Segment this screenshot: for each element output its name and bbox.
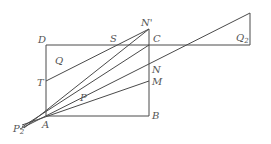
label-a: A bbox=[41, 119, 49, 130]
label-q2: Q2 bbox=[236, 32, 249, 45]
label-b: B bbox=[151, 110, 159, 121]
label-n: N bbox=[151, 64, 162, 75]
label-d: D bbox=[37, 34, 46, 45]
label-q: Q bbox=[55, 55, 63, 66]
label-c: C bbox=[153, 33, 161, 44]
label-m: M bbox=[151, 76, 163, 87]
label-p: P bbox=[79, 92, 87, 103]
geometry-diagram: D S N' C Q Q2 T N M P A B P2 bbox=[0, 0, 271, 144]
rectangle-sides bbox=[46, 29, 149, 116]
label-n-prime: N' bbox=[140, 17, 153, 28]
label-s: S bbox=[110, 33, 117, 44]
line-a-n-q2 bbox=[20, 13, 250, 129]
label-t: T bbox=[37, 77, 45, 88]
